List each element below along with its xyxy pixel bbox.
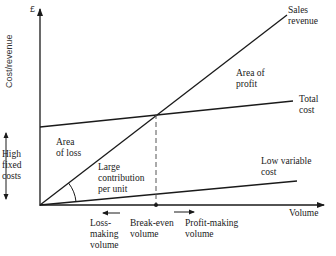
loss-making-volume-label: Loss- making volume xyxy=(90,218,119,251)
large-contribution-label: Large contribution per unit xyxy=(98,162,144,195)
sales-revenue-label: Sales revenue xyxy=(288,5,318,27)
variable-cost-line xyxy=(40,181,297,205)
break-even-point xyxy=(154,203,158,207)
y-unit-label: £ xyxy=(30,4,35,14)
x-axis-label: Volume xyxy=(289,208,318,219)
total-cost-line xyxy=(40,101,293,127)
high-fixed-costs-label: High fixed costs xyxy=(2,149,22,182)
break-even-volume-label: Break-even volume xyxy=(130,218,174,240)
area-of-loss-label: Area of loss xyxy=(56,137,81,159)
total-cost-label: Total cost xyxy=(299,94,318,116)
low-variable-cost-label: Low variable cost xyxy=(261,156,311,178)
area-of-profit-label: Area of profit xyxy=(236,68,265,90)
y-axis-label: Cost/revenue xyxy=(4,34,14,88)
contribution-angle-arc xyxy=(69,183,77,202)
sales-revenue-line xyxy=(40,15,287,205)
profit-making-volume-label: Profit-making volume xyxy=(185,218,238,240)
